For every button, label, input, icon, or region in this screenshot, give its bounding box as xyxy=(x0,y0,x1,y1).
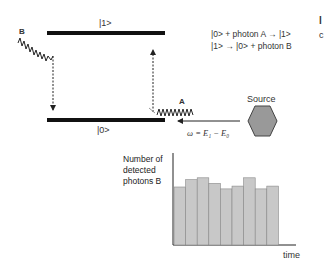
chart-bar xyxy=(232,186,244,245)
chart-bar xyxy=(267,186,279,245)
chart-bar xyxy=(186,180,198,245)
chart-bar xyxy=(174,187,186,245)
excited-state-level xyxy=(47,31,165,35)
chart-y-label-line-2: detected xyxy=(123,165,163,176)
equation-emission: |1> → |0> + photon B xyxy=(211,41,292,52)
frequency-label: ω = E₁ − E₀ xyxy=(187,128,229,138)
chart-bar xyxy=(244,178,256,245)
excited-state-label: |1> xyxy=(99,18,112,28)
photon-b-wave-icon xyxy=(18,38,53,61)
cutoff-glyph-1: l xyxy=(319,16,322,26)
cutoff-glyph-2: c xyxy=(319,30,324,40)
photon-a-tick xyxy=(149,108,155,113)
chart-x-label: time xyxy=(283,250,300,260)
photon-b-label: B xyxy=(19,27,25,37)
source-label: Source xyxy=(247,94,276,104)
ground-state-label: |0> xyxy=(97,125,110,135)
chart-bar xyxy=(197,178,209,245)
ground-state-level xyxy=(47,118,165,122)
chart-bar xyxy=(255,189,267,245)
chart-y-label-line-1: Number of xyxy=(123,154,163,165)
chart-bar xyxy=(220,189,232,245)
equation-absorption: |0> + photon A → |1> xyxy=(211,29,291,40)
source-hexagon-icon xyxy=(248,106,277,136)
chart-y-label-line-3: photons B xyxy=(123,176,163,187)
photon-a-wave-icon xyxy=(157,109,193,116)
chart-bar xyxy=(209,183,221,245)
chart-y-label: Number of detected photons B xyxy=(123,154,163,187)
chart-bars xyxy=(174,178,278,245)
photon-a-label: A xyxy=(179,97,185,107)
